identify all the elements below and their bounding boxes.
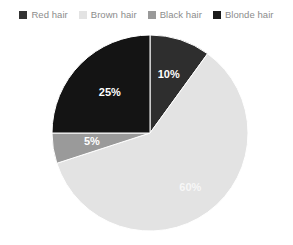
pie-slice-value-label: 5%	[84, 135, 100, 147]
pie-slice-value-label: 10%	[158, 68, 180, 80]
chart-legend: Red hair Brown hair Black hair Blonde ha…	[0, 0, 293, 26]
square-swatch-icon	[148, 11, 156, 19]
pie-slice-value-label: 25%	[99, 86, 121, 98]
legend-item-label: Brown hair	[91, 10, 137, 20]
legend-item-label: Blonde hair	[225, 10, 274, 20]
legend-item-brown-hair[interactable]: Brown hair	[79, 10, 137, 20]
square-swatch-icon	[79, 11, 87, 19]
square-swatch-icon	[19, 11, 27, 19]
legend-item-black-hair[interactable]: Black hair	[148, 10, 202, 20]
pie-chart-figure: Red hair Brown hair Black hair Blonde ha…	[0, 0, 293, 245]
pie-slice[interactable]	[52, 35, 150, 133]
legend-item-red-hair[interactable]: Red hair	[19, 10, 67, 20]
legend-item-label: Red hair	[31, 10, 67, 20]
pie-slice-value-label: 60%	[179, 181, 201, 193]
pie-slices	[52, 35, 248, 231]
square-swatch-icon	[213, 11, 221, 19]
pie-svg: 10%60%5%25%	[0, 26, 293, 245]
legend-item-blonde-hair[interactable]: Blonde hair	[213, 10, 274, 20]
pie-plot-area: 10%60%5%25%	[0, 26, 293, 245]
legend-item-label: Black hair	[160, 10, 202, 20]
